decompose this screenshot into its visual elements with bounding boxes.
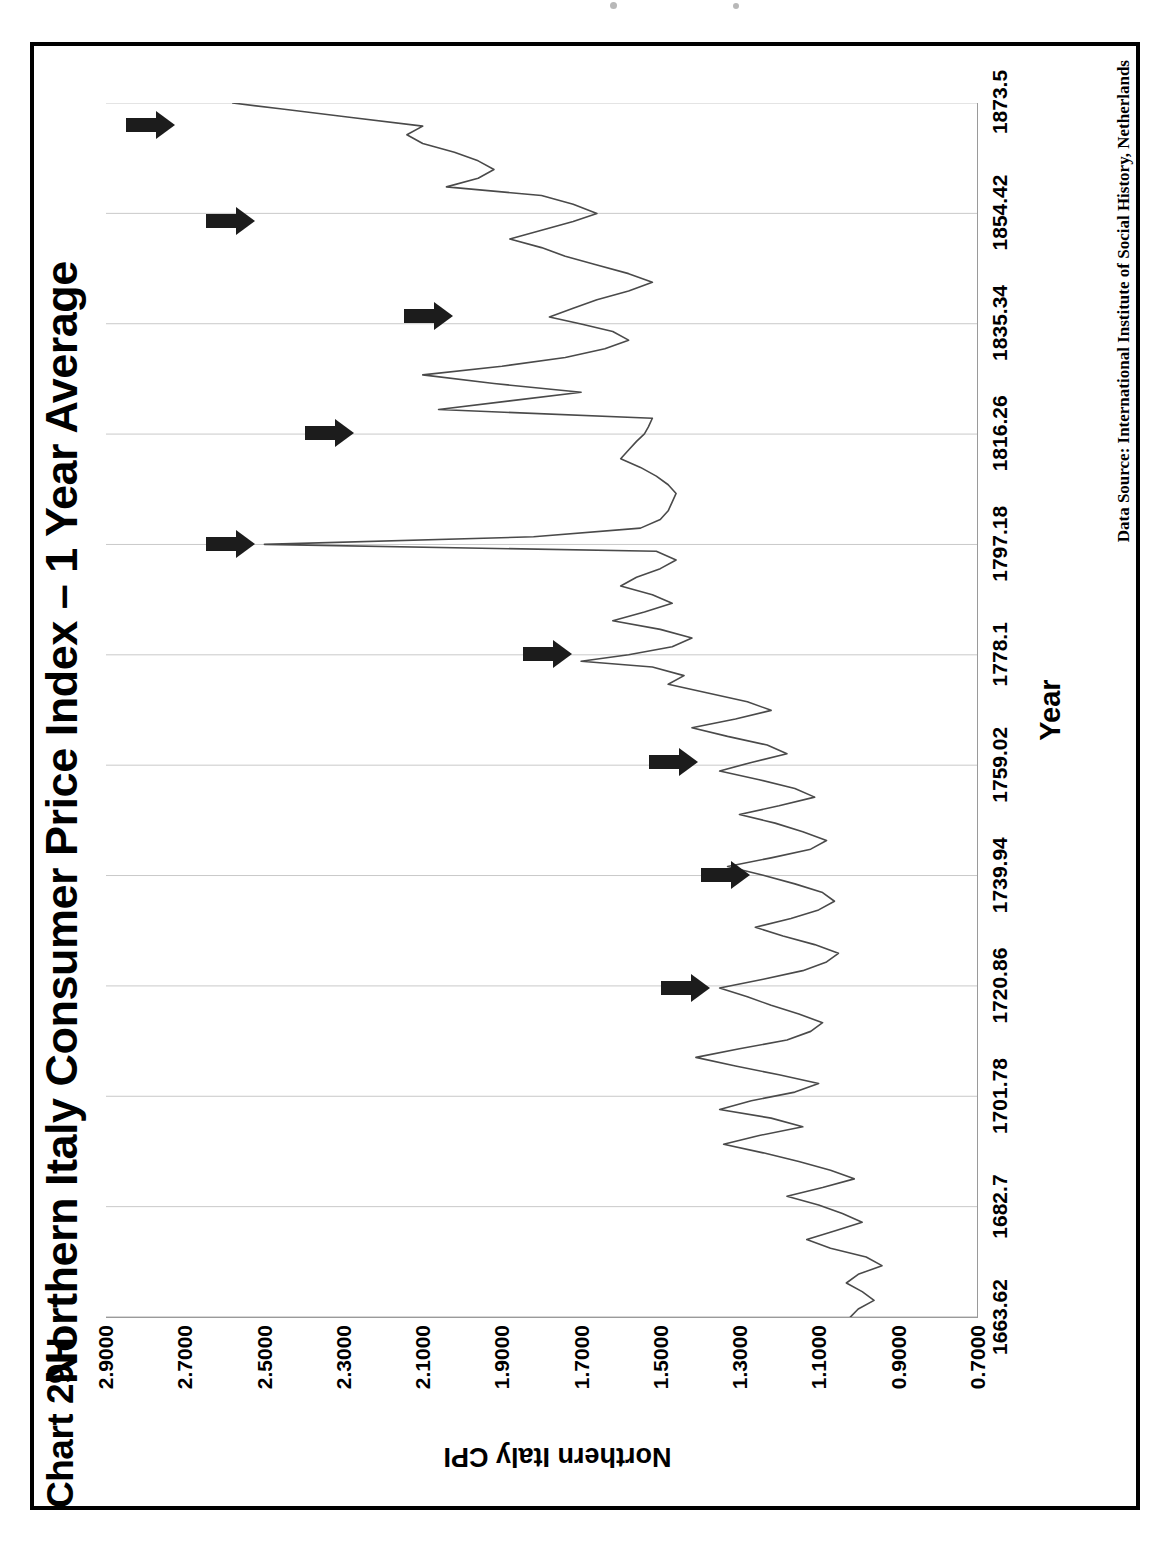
- x-axis-tick-label: 1701.78: [988, 1058, 1012, 1134]
- arrow-shaft: [206, 537, 236, 551]
- arrow-head: [236, 207, 255, 235]
- y-axis-tick-label: 1.9000: [490, 1325, 514, 1389]
- y-axis-tick-label: 2.3000: [332, 1325, 356, 1389]
- x-axis-tick-label: 1739.94: [988, 837, 1012, 913]
- y-axis-tick-label: 2.5000: [253, 1325, 277, 1389]
- arrow-head: [731, 861, 750, 889]
- data-series-group: [233, 103, 882, 1317]
- arrow-shaft: [206, 214, 236, 228]
- x-axis-tick-label: 1854.42: [988, 175, 1012, 251]
- arrow-shaft: [404, 309, 434, 323]
- y-axis-tick-label: 1.5000: [649, 1325, 673, 1389]
- scanned-page-frame: Chart 29H Northern Italy Consumer Price …: [30, 42, 1140, 1510]
- plot-area: 0.70000.90001.10001.30001.50001.70001.90…: [106, 103, 978, 1318]
- line-chart-canvas: [106, 103, 977, 1317]
- y-axis-tick-label: 0.7000: [966, 1325, 990, 1389]
- chart-title: Northern Italy Consumer Price Index – 1 …: [36, 261, 88, 1384]
- arrow-shaft: [649, 755, 679, 769]
- y-axis-tick-label: 1.1000: [807, 1325, 831, 1389]
- arrow-head: [679, 748, 698, 776]
- y-axis-tick-label: 2.9000: [94, 1325, 118, 1389]
- scan-artifact: [610, 2, 617, 9]
- y-axis-tick-label: 2.7000: [173, 1325, 197, 1389]
- y-axis-tick-label: 2.1000: [411, 1325, 435, 1389]
- y-axis-tick-label: 1.3000: [728, 1325, 752, 1389]
- x-axis-tick-label: 1778.1: [988, 622, 1012, 686]
- arrow-head: [691, 974, 710, 1002]
- arrow-head: [236, 530, 255, 558]
- x-axis-tick-label: 1816.26: [988, 395, 1012, 471]
- arrow-head: [335, 419, 354, 447]
- arrow-shaft: [126, 118, 156, 132]
- x-axis-tick-label: 1720.86: [988, 948, 1012, 1024]
- x-axis-tick-label: 1663.62: [988, 1279, 1012, 1355]
- cpi-line: [233, 103, 882, 1317]
- y-axis-tick-label: 1.7000: [570, 1325, 594, 1389]
- gridlines: [106, 103, 977, 1317]
- y-axis-title: Northern Italy CPI: [443, 1441, 671, 1472]
- y-axis-tick-label: 0.9000: [887, 1325, 911, 1389]
- arrow-head: [156, 111, 175, 139]
- x-axis-tick-label: 1835.34: [988, 285, 1012, 361]
- rotated-figure: Chart 29H Northern Italy Consumer Price …: [34, 46, 1144, 1514]
- rotated-figure-wrapper: Chart 29H Northern Italy Consumer Price …: [34, 46, 1144, 1514]
- x-axis-tick-label: 1797.18: [988, 506, 1012, 582]
- arrow-shaft: [661, 981, 691, 995]
- x-axis-title: Year: [1034, 679, 1067, 740]
- arrow-shaft: [523, 647, 553, 661]
- arrow-head: [434, 302, 453, 330]
- arrow-shaft: [305, 426, 335, 440]
- x-axis-tick-label: 1759.02: [988, 727, 1012, 803]
- data-source-note: Data Source: International Institute of …: [1114, 60, 1134, 542]
- x-axis-tick-label: 1873.5: [988, 70, 1012, 134]
- x-axis-tick-label: 1682.7: [988, 1174, 1012, 1238]
- scan-artifact: [733, 3, 739, 9]
- arrow-head: [553, 640, 572, 668]
- arrow-shaft: [701, 868, 731, 882]
